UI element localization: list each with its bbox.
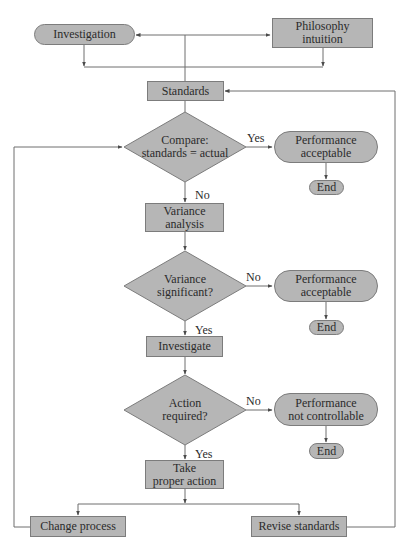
node-take-proper-action: Take proper action bbox=[145, 460, 224, 489]
decision-variance-significant-label: Variance significant? bbox=[134, 267, 236, 305]
edge-label-compare-no: No bbox=[195, 189, 210, 201]
node-end-2: End bbox=[309, 320, 344, 335]
node-end-1: End bbox=[309, 180, 344, 195]
node-standards: Standards bbox=[147, 81, 224, 101]
edge-label-variance-yes: Yes bbox=[195, 324, 212, 336]
decision-action-required-label: Action required? bbox=[134, 391, 236, 429]
node-philosophy-intuition: Philosophy intuition bbox=[272, 18, 373, 48]
node-investigation: Investigation bbox=[34, 24, 135, 45]
edge-label-action-no: No bbox=[246, 395, 261, 407]
node-revise-standards: Revise standards bbox=[251, 516, 347, 537]
edge-label-compare-yes: Yes bbox=[247, 132, 264, 144]
connector-change-process-loop bbox=[14, 147, 122, 527]
node-performance-not-controllable: Performance not controllable bbox=[274, 393, 378, 426]
node-variance-analysis: Variance analysis bbox=[145, 203, 224, 232]
edge-label-variance-no: No bbox=[246, 271, 261, 283]
node-end-3: End bbox=[309, 443, 344, 459]
edge-label-action-yes: Yes bbox=[195, 448, 212, 460]
decision-compare-label: Compare: standards = actual bbox=[134, 128, 236, 166]
node-performance-acceptable-2: Performance acceptable bbox=[274, 270, 378, 302]
node-performance-acceptable-1: Performance acceptable bbox=[274, 131, 378, 163]
node-investigate: Investigate bbox=[146, 336, 223, 357]
node-change-process: Change process bbox=[30, 516, 126, 537]
